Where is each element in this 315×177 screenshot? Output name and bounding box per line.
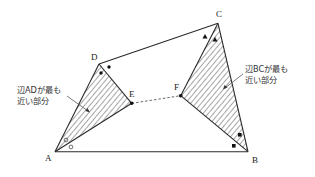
- angle-mark-d-2: [99, 71, 102, 74]
- point-e: [130, 102, 134, 106]
- region-nearest-ad: [55, 64, 132, 152]
- vertex-label-d: D: [91, 52, 98, 62]
- angle-mark-b-1: [238, 133, 242, 137]
- angle-mark-d-1: [107, 65, 110, 68]
- vertex-label-a: A: [45, 153, 52, 163]
- angle-mark-b-2: [232, 144, 236, 148]
- annotation-ad-line1: 辺ADが最も: [17, 85, 61, 95]
- point-f: [179, 94, 183, 98]
- angle-mark-a-2: [69, 145, 73, 149]
- annotation-ad-line2: 近い部分: [17, 96, 49, 106]
- segment-ef-dashed: [132, 96, 181, 104]
- vertex-label-f: F: [174, 82, 179, 92]
- geometry-diagram: A B C D E F 辺ADが最も 近い部分 辺BCが最も 近い部分: [0, 0, 315, 177]
- annotation-bc-line2: 近い部分: [245, 75, 277, 85]
- region-nearest-bc: [181, 23, 248, 151]
- annotation-bc-line1: 辺BCが最も: [245, 64, 288, 74]
- angle-mark-c-1: [203, 34, 208, 39]
- vertex-label-b: B: [252, 155, 258, 165]
- vertex-label-e: E: [129, 89, 135, 99]
- vertex-label-c: C: [216, 9, 222, 19]
